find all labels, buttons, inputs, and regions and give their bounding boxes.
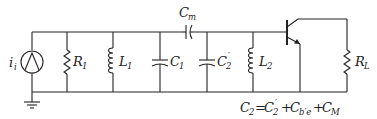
ground-icon: [24, 92, 40, 108]
label-l1: L 1: [118, 54, 132, 71]
svg-text:M: M: [330, 107, 340, 117]
svg-text:b′e: b′e: [299, 107, 311, 117]
svg-text:2: 2: [272, 107, 278, 117]
svg-text:2: 2: [248, 107, 254, 117]
resistor-r1-icon: [64, 32, 70, 92]
transistor-icon: [287, 19, 347, 92]
circuit-diagram: i i R 1 L 1 C 1 C m C 2 ′ L 2 R L C 2 = …: [0, 0, 377, 119]
label-r1: R 1: [72, 54, 87, 71]
svg-text:1: 1: [127, 61, 132, 71]
svg-text:′: ′: [275, 98, 277, 108]
capacitor-cm-icon: [182, 25, 194, 39]
svg-text:2: 2: [225, 61, 231, 71]
label-l2: L 2: [258, 54, 272, 71]
label-c1: C 1: [170, 54, 184, 71]
svg-text:1: 1: [82, 61, 87, 71]
inductor-l2-icon: [249, 32, 254, 92]
equation-c2: C 2 = C 2 ′ + C b′e + C M: [240, 98, 340, 117]
svg-text:i: i: [9, 55, 13, 70]
current-source-icon: [21, 32, 43, 92]
capacitor-c1-icon: [152, 32, 168, 92]
label-rl: R L: [354, 54, 370, 71]
svg-text:m: m: [188, 12, 196, 22]
label-cm: C m: [179, 5, 196, 22]
svg-text:1: 1: [179, 61, 184, 71]
inductor-l1-icon: [109, 32, 114, 92]
label-ii: i i: [9, 55, 17, 72]
svg-text:′: ′: [228, 51, 230, 61]
label-c2-prime: C 2 ′: [217, 51, 231, 71]
capacitor-c2-prime-icon: [199, 32, 215, 92]
svg-text:i: i: [14, 62, 17, 72]
resistor-rl-icon: [344, 19, 350, 92]
svg-text:L: L: [363, 61, 370, 71]
svg-text:2: 2: [266, 61, 272, 71]
